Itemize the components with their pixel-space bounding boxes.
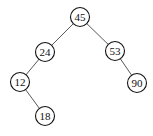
tree-node-18: 18 — [36, 107, 55, 126]
node-label: 90 — [132, 77, 144, 89]
tree-node-53: 53 — [106, 42, 125, 61]
tree-node-24: 24 — [36, 43, 55, 62]
tree-node-12: 12 — [11, 73, 30, 92]
tree-diagram: 45 24 53 12 90 18 — [0, 0, 153, 136]
tree-node-45: 45 — [71, 8, 90, 27]
tree-node-90: 90 — [128, 74, 147, 93]
node-label: 12 — [15, 76, 26, 88]
node-label: 24 — [40, 46, 52, 58]
node-label: 18 — [40, 110, 52, 122]
node-label: 53 — [110, 45, 122, 57]
node-label: 45 — [75, 11, 87, 23]
edges — [20, 17, 137, 116]
